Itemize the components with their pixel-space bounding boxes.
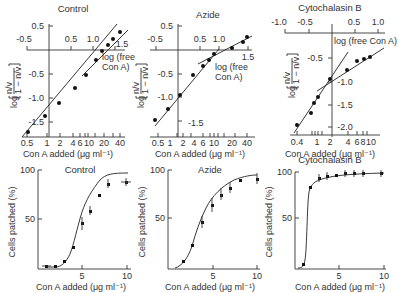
x2-label: Con A) [215,72,243,82]
y-tick: -1.0 [157,92,173,102]
y-label: Cells patched (%) [7,186,17,257]
top-tick: 0.5 [348,17,361,27]
y-tick: -0.5 [28,69,44,79]
bottom-tick: 10 [209,138,219,148]
axes [295,172,386,269]
y-tick: 50 [155,213,165,223]
y-tick: -1.0 [337,77,353,87]
y-tick: -2.0 [337,122,353,132]
top-tick: -0.5 [147,34,163,44]
title-azide: Azide [196,9,220,20]
bottom-tick: 0.5 [21,138,34,148]
y-tick: -1.0 [28,93,44,103]
bottom-tick: 0.4 [291,137,304,147]
x-tick: 10 [252,271,262,281]
fit-line [294,52,348,133]
data-points [295,55,372,127]
bottom-tick: 40 [115,138,125,148]
top-tick: -0.5 [297,17,313,27]
panel-top-control: Control 0.5 -0.5 -1.0 -1.5 -0.5 0.5 1.0 … [4,3,135,159]
fit-curve [46,173,128,267]
y-label: log n/v 1 − n/v [131,64,150,108]
y-tick: -1.5 [28,117,44,127]
panel-bottom-azide: Azide 100 50 5 10 Con A added (μg ml⁻¹) … [137,164,262,292]
y-tick: 50 [25,214,35,224]
fit-curve [175,175,257,268]
bottom-tick: 2 [57,138,62,148]
title-control: Control [58,3,89,14]
x-tick: 5 [79,271,84,281]
y-tick: 100 [150,165,165,175]
x2-label: log (free Con A) [334,36,397,46]
panel-top-cytochalasin: Cytochalasin B -1.0 -0.5 0.5 1.0 log (fr… [271,2,397,159]
data-points [302,172,383,266]
data-points [182,178,259,263]
x-tick: 10 [379,271,389,281]
data-points [45,181,128,268]
x2-label: log (free [215,62,248,72]
axes [38,170,131,269]
bottom-tick: 1 [167,138,172,148]
top-tick: 1.0 [213,34,226,44]
title-control: Control [65,164,96,175]
top-tick: 1.5 [242,52,255,62]
x-label: Con A added (μg ml⁻¹) [36,282,126,292]
figure: Control 0.5 -0.5 -1.0 -1.5 -0.5 0.5 1.0 … [0,0,398,293]
x-label: Con A added (μg ml⁻¹) [23,149,113,159]
bottom-tick: 10 [84,138,94,148]
x-tick: 5 [336,271,341,281]
bottom-tick: 40 [242,138,252,148]
y-label: Cells patched (%) [137,186,147,257]
panel-bottom-cytochalasin: Cytochalasin B 100 50 5 10 Con A added (… [264,154,389,292]
y-tick: -1.5 [337,100,353,110]
panel-bottom-control: Control 100 50 5 10 Con A added (μg ml⁻¹… [7,164,132,292]
x-label: Con A added (μg ml⁻¹) [295,282,385,292]
bottom-tick: 8 [360,137,365,147]
y-label: log n/v 1 − n/v [282,54,301,98]
y-tick: 50 [282,213,292,223]
x-tick: 10 [122,271,132,281]
bottom-tick: 10 [366,137,376,147]
title-cytochalasin: Cytochalasin B [298,2,361,13]
bottom-tick: 6 [354,137,359,147]
bottom-tick: 20 [227,138,237,148]
y-tick: 100 [20,165,35,175]
top-tick: -0.5 [16,34,32,44]
y-tick: -0.5 [157,69,173,79]
bottom-tick: 4 [70,138,75,148]
axes [168,170,260,269]
title-azide: Azide [198,164,222,175]
x-tick: 5 [210,271,215,281]
y-tick: -1.5 [188,118,204,128]
bottom-tick: 4 [345,137,350,147]
top-tick: -1.0 [271,17,287,27]
y-tick: 100 [277,167,292,177]
top-tick: 0.5 [194,34,207,44]
x2-label: log (free [102,52,135,62]
error-bars [42,178,131,266]
bottom-tick: 4 [191,138,196,148]
bottom-tick: 1 [314,137,319,147]
top-tick: 0.5 [65,34,78,44]
svg-text:1 − n/v: 1 − n/v [13,66,23,94]
x2-label: Con A) [102,62,130,72]
bottom-tick: 2 [180,138,185,148]
bottom-tick: 1 [44,138,49,148]
y-label: Cells patched (%) [264,186,274,257]
bottom-tick: 6 [77,138,82,148]
top-tick: 1.0 [87,34,100,44]
svg-text:1 − n/v: 1 − n/v [291,56,301,84]
y-label: log n/v 1 − n/v [4,64,23,108]
x-label: Con A added (μg ml⁻¹) [155,149,245,159]
svg-text:1 − n/v: 1 − n/v [140,66,150,94]
x-label: Con A added (μg ml⁻¹) [165,282,255,292]
bottom-tick: 6 [200,138,205,148]
bottom-tick: 20 [99,138,109,148]
bottom-tick: 0.5 [152,138,165,148]
panel-top-azide: Azide 0.5 -0.5 -1.0 -1.5 -0.5 0.5 1.0 1.… [131,9,255,159]
y-tick: -0.5 [307,53,323,63]
y-tick: 0.5 [160,21,173,31]
title-cytochalasin: Cytochalasin B [298,154,361,165]
top-tick: 1.0 [372,17,385,27]
y-tick: 0.5 [31,21,44,31]
